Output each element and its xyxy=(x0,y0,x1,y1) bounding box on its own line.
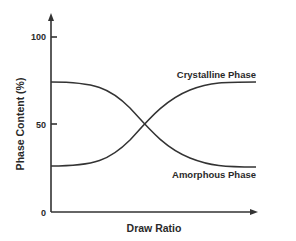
chart: 100 50 0 Phase Content (%) Draw Ratio Cr… xyxy=(0,0,296,241)
crystalline-label: Crystalline Phase xyxy=(177,69,256,80)
amorphous-curve xyxy=(51,82,256,167)
tick-label-100: 100 xyxy=(31,32,46,42)
y-axis-label: Phase Content (%) xyxy=(14,78,26,171)
y-axis-arrow-icon xyxy=(48,13,54,21)
amorphous-label: Amorphous Phase xyxy=(172,169,256,180)
crystalline-curve xyxy=(51,82,256,166)
tick-label-0: 0 xyxy=(41,208,46,218)
tick-label-50: 50 xyxy=(36,120,46,130)
x-axis-arrow-icon xyxy=(250,209,258,215)
x-axis-label: Draw Ratio xyxy=(127,222,182,234)
